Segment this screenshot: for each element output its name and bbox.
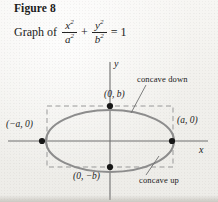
label-right-vertex: (a, 0) xyxy=(177,115,198,125)
equation-right-side: 1 xyxy=(121,25,127,40)
point-left-vertex xyxy=(39,138,45,144)
fraction-denominator-a: a2 xyxy=(63,33,76,45)
fraction-y-over-b: y2 b2 xyxy=(92,20,107,45)
point-bottom-vertex xyxy=(107,164,113,170)
exponent: 2 xyxy=(70,18,74,26)
fraction-x-over-a: x2 a2 xyxy=(62,20,77,45)
concave-down-leader-line xyxy=(131,85,146,113)
annotation-concave-up: concave up xyxy=(139,175,179,185)
exponent: 2 xyxy=(100,32,104,40)
ellipse-plot: y x (0, b) (a, 0) (−a, 0) (0, −b) concav… xyxy=(0,55,218,202)
label-top-vertex: (0, b) xyxy=(104,89,125,99)
fraction-numerator-y: y2 xyxy=(93,20,105,32)
fraction-numerator-x: x2 xyxy=(63,20,75,32)
label-bottom-vertex: (0, −b) xyxy=(73,171,100,181)
annotation-concave-down: concave down xyxy=(137,74,188,84)
point-right-vertex xyxy=(169,138,175,144)
exponent: 2 xyxy=(100,18,104,26)
caption-lead-text: Graph of xyxy=(14,25,57,40)
equation-operator-plus: + xyxy=(81,25,88,40)
figure-caption: Graph of x2 a2 + y2 b2 = 1 xyxy=(14,20,127,45)
point-top-vertex xyxy=(107,103,113,109)
x-axis-label: x xyxy=(199,144,203,155)
y-axis-label: y xyxy=(114,58,118,69)
fraction-denominator-b: b2 xyxy=(93,33,106,45)
equation-equals-sign: = xyxy=(111,25,118,40)
figure-page: Figure 8 Graph of x2 a2 + y2 b2 = 1 xyxy=(0,0,218,202)
figure-title: Figure 8 xyxy=(14,2,56,14)
exponent: 2 xyxy=(70,32,74,40)
label-left-vertex: (−a, 0) xyxy=(6,119,33,129)
